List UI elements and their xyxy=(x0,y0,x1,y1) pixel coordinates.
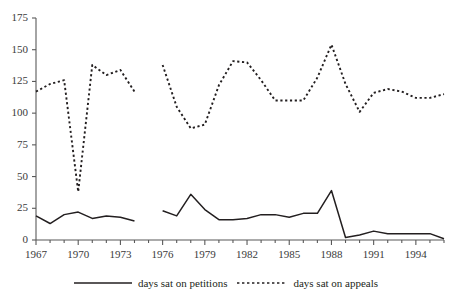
x-tick-label: 1994 xyxy=(396,249,436,260)
legend-swatch-dotted xyxy=(236,278,288,288)
legend-item-appeals: days sat on appeals xyxy=(236,277,378,289)
y-tick-label: 150 xyxy=(0,44,28,55)
x-tick-label: 1976 xyxy=(143,249,183,260)
x-axis-ticks xyxy=(36,240,444,245)
x-tick-label: 1967 xyxy=(16,249,56,260)
y-tick-label: 0 xyxy=(0,234,28,245)
chart-legend: days sat on petitions days sat on appeal… xyxy=(0,277,451,289)
line-chart: 0255075100125150175 19671970197319761979… xyxy=(0,0,451,303)
x-tick-label: 1991 xyxy=(354,249,394,260)
x-tick-label: 1982 xyxy=(227,249,267,260)
series-line-days-sat-on-appeals xyxy=(163,45,444,129)
legend-swatch-solid xyxy=(73,278,133,288)
x-tick-label: 1988 xyxy=(311,249,351,260)
series-line-days-sat-on-appeals xyxy=(36,65,134,192)
y-tick-label: 175 xyxy=(0,12,28,23)
legend-label-appeals: days sat on appeals xyxy=(293,277,378,289)
series-line-days-sat-on-petitions xyxy=(163,191,444,239)
x-tick-label: 1973 xyxy=(100,249,140,260)
y-axis-ticks xyxy=(32,18,36,240)
y-tick-label: 100 xyxy=(0,107,28,118)
y-tick-label: 25 xyxy=(0,202,28,213)
y-tick-label: 50 xyxy=(0,171,28,182)
legend-item-petitions: days sat on petitions xyxy=(73,277,228,289)
y-tick-label: 75 xyxy=(0,139,28,150)
x-tick-label: 1979 xyxy=(185,249,225,260)
x-tick-label: 1970 xyxy=(58,249,98,260)
data-series-layer xyxy=(36,45,444,239)
legend-label-petitions: days sat on petitions xyxy=(138,277,228,289)
y-tick-label: 125 xyxy=(0,75,28,86)
series-line-days-sat-on-petitions xyxy=(36,212,134,223)
axes xyxy=(32,18,444,245)
x-tick-label: 1985 xyxy=(269,249,309,260)
